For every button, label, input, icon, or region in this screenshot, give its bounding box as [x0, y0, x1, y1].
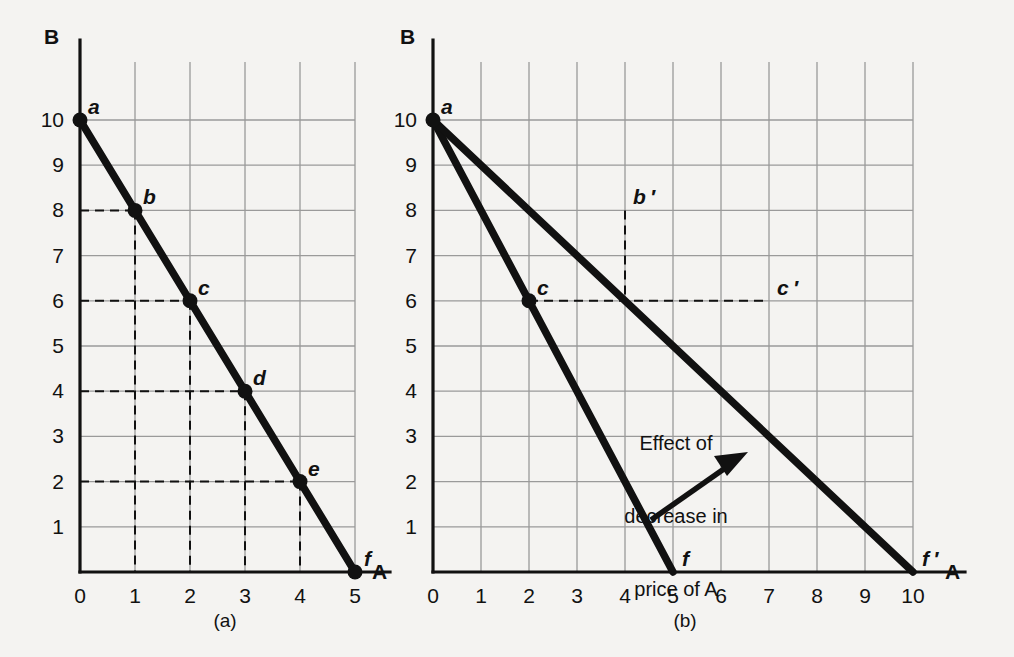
point-e [293, 474, 308, 489]
point-c [183, 293, 198, 308]
panel-a-xtick-2: 2 [170, 585, 210, 606]
point-label-b: b [143, 186, 156, 207]
panel-b-ytick-3: 3 [375, 425, 417, 446]
panel-a-xtick-3: 3 [225, 585, 265, 606]
point-label-e: e [308, 458, 320, 479]
point-label-c-panel-b: c [537, 277, 549, 298]
panel-b-ytick-10: 10 [375, 109, 417, 130]
point-label-c-prime: c ′ [777, 277, 798, 298]
point-label-d: d [253, 367, 266, 388]
panel-b-x-axis-label: A [945, 561, 960, 582]
panel-a-y-axis-label: B [44, 26, 59, 47]
panel-b-ytick-5: 5 [375, 335, 417, 356]
panel-b-ytick-1: 1 [375, 516, 417, 537]
panel-a-xtick-0: 0 [60, 585, 100, 606]
panel-a-x-axis-label: A [372, 561, 387, 582]
point-a [73, 113, 88, 128]
point-label-a: a [88, 96, 100, 117]
point-label-a-prime-panel-b: a [441, 96, 453, 117]
panel-a-xtick-4: 4 [280, 585, 320, 606]
panel-b-xtick-10: 10 [893, 585, 933, 606]
point-label-f-prime: f ′ [922, 548, 938, 569]
panel-a-ytick-4: 4 [22, 380, 64, 401]
point-b [128, 203, 143, 218]
panel-a-xtick-1: 1 [115, 585, 155, 606]
annotation-line-1: Effect of [596, 431, 756, 455]
panel-b-ytick-7: 7 [375, 245, 417, 266]
panel-a-ytick-7: 7 [22, 245, 64, 266]
point-label-c: c [198, 277, 210, 298]
panel-b-ytick-9: 9 [375, 154, 417, 175]
panel-a-ytick-5: 5 [22, 335, 64, 356]
panel-a-grid [80, 62, 355, 572]
panel-a-caption: (a) [195, 611, 255, 630]
panel-b-xtick-0: 0 [413, 585, 453, 606]
point-d [238, 384, 253, 399]
panel-b-ytick-2: 2 [375, 471, 417, 492]
point-c [522, 293, 537, 308]
point-a [426, 113, 441, 128]
panel-b-ytick-4: 4 [375, 380, 417, 401]
point-label-f: f [364, 548, 371, 569]
figure-container: B A 10 9 8 7 6 5 4 3 2 1 0 1 2 3 4 5 a b… [0, 0, 1014, 657]
point-label-b-prime: b ′ [633, 186, 655, 207]
panel-b-xtick-2: 2 [509, 585, 549, 606]
panel-b-xtick-1: 1 [461, 585, 501, 606]
panel-a-ytick-6: 6 [22, 290, 64, 311]
figure-canvas [0, 0, 1014, 657]
annotation-line-2: decrease in [596, 504, 756, 528]
panel-a-ytick-3: 3 [22, 425, 64, 446]
panel-b-xtick-9: 9 [845, 585, 885, 606]
point-f [348, 565, 363, 580]
panel-b-xtick-8: 8 [797, 585, 837, 606]
panel-a-ytick-8: 8 [22, 199, 64, 220]
panel-b-caption: (b) [655, 611, 715, 630]
panel-b-ytick-8: 8 [375, 199, 417, 220]
panel-b-y-axis-label: B [400, 26, 415, 47]
panel-b-xtick-3: 3 [557, 585, 597, 606]
panel-a-xtick-5: 5 [335, 585, 375, 606]
panel-a-ytick-2: 2 [22, 471, 64, 492]
panel-a-ytick-10: 10 [22, 109, 64, 130]
annotation-line-3: price of A [596, 577, 756, 601]
panel-a-ytick-9: 9 [22, 154, 64, 175]
panel-b-ytick-6: 6 [375, 290, 417, 311]
panel-a-ytick-1: 1 [22, 516, 64, 537]
